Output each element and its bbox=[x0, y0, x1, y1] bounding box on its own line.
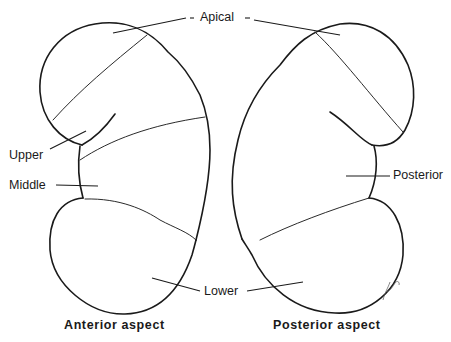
anterior-horizontal-fissure bbox=[80, 117, 205, 160]
anterior-middle-edge bbox=[79, 146, 83, 198]
label-posterior: Posterior bbox=[393, 168, 443, 182]
caption-posterior-aspect: Posterior aspect bbox=[273, 318, 381, 332]
posterior-outer-outline bbox=[232, 23, 413, 239]
anterior-upper-outline bbox=[40, 23, 210, 240]
lower-leader-right bbox=[247, 282, 303, 291]
posterior-view bbox=[232, 23, 413, 313]
label-lower: Lower bbox=[204, 284, 238, 298]
artist-signature bbox=[383, 282, 399, 300]
anterior-view bbox=[40, 23, 210, 314]
posterior-middle-edge bbox=[369, 146, 376, 198]
lower-leader-left bbox=[152, 278, 200, 291]
posterior-lower-fissure bbox=[260, 198, 369, 240]
anterior-oblique-fissure bbox=[53, 35, 147, 120]
posterior-notch bbox=[330, 112, 372, 145]
middle-leader bbox=[56, 185, 98, 186]
label-upper: Upper bbox=[9, 148, 43, 162]
apical-leader-left bbox=[113, 18, 186, 33]
caption-anterior-aspect: Anterior aspect bbox=[64, 318, 165, 332]
anterior-upper-notch bbox=[82, 114, 115, 145]
label-middle: Middle bbox=[9, 178, 46, 192]
anterior-lower-lobe bbox=[50, 198, 196, 314]
anterior-lower-fissure bbox=[85, 199, 196, 240]
leader-lines bbox=[50, 18, 390, 291]
posterior-oblique-fissure bbox=[315, 32, 403, 132]
diagram-canvas: Apical Upper Middle Lower Posterior Ante… bbox=[0, 0, 451, 342]
label-apical: Apical bbox=[200, 10, 234, 24]
posterior-lower-lobe bbox=[242, 198, 403, 313]
